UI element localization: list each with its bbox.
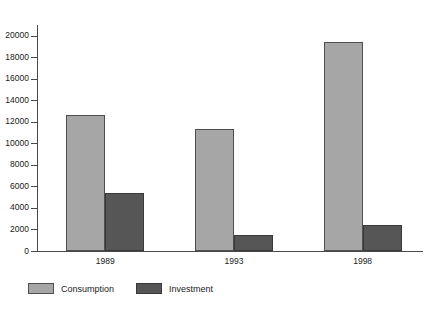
x-axis-line <box>37 251 423 252</box>
bar-investment-1993 <box>234 235 273 251</box>
y-tick-label: 14000 <box>0 96 29 105</box>
x-tick-label-1989: 1989 <box>66 256 144 266</box>
bar-investment-1989 <box>105 193 144 251</box>
y-tick-label: 10000 <box>0 139 29 148</box>
chart-legend: ConsumptionInvestment <box>28 283 213 294</box>
bar-investment-1998 <box>363 225 402 251</box>
legend-label-investment: Investment <box>169 284 213 294</box>
y-tick-label: 12000 <box>0 117 29 126</box>
bar-consumption-1989 <box>66 115 105 251</box>
legend-swatch-consumption <box>28 283 54 294</box>
y-tick-label: 18000 <box>0 53 29 62</box>
y-tick-label: 4000 <box>0 203 29 212</box>
legend-swatch-investment <box>136 283 162 294</box>
y-tick-mark <box>31 251 37 252</box>
x-tick-label-1993: 1993 <box>195 256 273 266</box>
y-tick-label: 0 <box>0 247 29 256</box>
bar-consumption-1998 <box>324 42 363 251</box>
y-tick-label: 2000 <box>0 225 29 234</box>
bar-consumption-1993 <box>195 129 234 251</box>
y-tick-label: 6000 <box>0 182 29 191</box>
bar-chart: 0200040006000800010000120001400016000180… <box>0 0 430 311</box>
y-tick-label: 8000 <box>0 160 29 169</box>
x-tick-label-1998: 1998 <box>324 256 402 266</box>
legend-item-consumption: Consumption <box>28 283 114 294</box>
y-tick-label: 20000 <box>0 31 29 40</box>
legend-label-consumption: Consumption <box>61 284 114 294</box>
legend-item-investment: Investment <box>136 283 213 294</box>
plot-area <box>37 25 423 251</box>
y-tick-label: 16000 <box>0 74 29 83</box>
